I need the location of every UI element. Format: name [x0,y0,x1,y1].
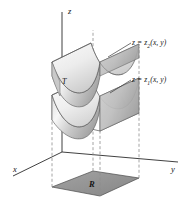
region-R-label: R [88,179,95,189]
y-axis [62,152,178,162]
lower-eq-args: (x, y) [150,75,166,84]
region-R-group [52,171,139,196]
region-R-shape [52,171,139,196]
calculus-figure-container: z x y T R z = z2(x, y) z = z1(x, y) [0,0,187,206]
figure-svg: z x y T R [0,0,187,206]
lower-eq-equals: = [135,75,144,84]
x-axis [13,152,62,176]
lower-surface-equation-label: z = z1(x, y) [132,75,166,86]
y-axis-label: y [170,164,175,174]
upper-surface-equation-label: z = z2(x, y) [132,38,166,49]
upper-eq-args: (x, y) [150,38,166,47]
x-axis-label: x [12,164,17,174]
upper-eq-equals: = [135,38,144,47]
z-axis-label: z [67,6,72,16]
solid-T-label: T [62,77,67,86]
lower-surface-right-cap [100,78,139,131]
